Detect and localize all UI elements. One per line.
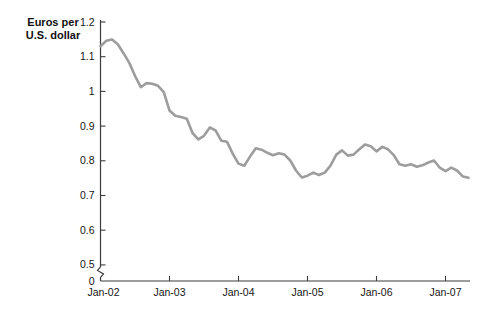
y-tick-label: 0.6 (80, 224, 95, 236)
x-tick-label: Jan-06 (360, 286, 392, 298)
y-tick-label: 1.1 (80, 50, 95, 62)
y-tick-label: 0.7 (80, 189, 95, 201)
series-line (101, 39, 469, 177)
x-tick-label: Jan-02 (87, 286, 119, 298)
x-tick-label: Jan-07 (429, 286, 461, 298)
y-tick-label: 1 (89, 85, 95, 97)
x-tick-label: Jan-05 (291, 286, 323, 298)
line-chart: 1.21.110.90.80.70.60.50Jan-02Jan-03Jan-0… (0, 0, 500, 327)
y-axis-line (98, 20, 104, 281)
y-tick-label: 0.9 (80, 120, 95, 132)
x-tick-label: Jan-04 (222, 286, 254, 298)
y-tick-label: 0.8 (80, 154, 95, 166)
y-origin-label: 0 (89, 275, 95, 287)
x-tick-label: Jan-03 (153, 286, 185, 298)
y-tick-label: 1.2 (80, 16, 95, 28)
y-tick-label: 0.5 (80, 258, 95, 270)
chart-container: Euros per U.S. dollar 1.21.110.90.80.70.… (0, 0, 500, 327)
